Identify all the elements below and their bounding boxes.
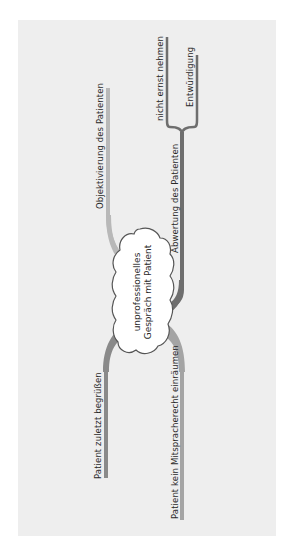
central-topic-text: unprofessionelles Gespräch mit Patient xyxy=(132,237,156,347)
branch-label-objektivierung: Objektivierung des Patienten xyxy=(95,83,105,209)
branch-nicht-ernst-line[interactable] xyxy=(167,37,182,134)
branch-label-abwertung: Abwertung des Patienten xyxy=(170,144,180,253)
branch-label-nicht-ernst-nehmen: nicht ernst nehmen xyxy=(155,36,165,121)
branch-label-entwuerdigung: Entwürdigung xyxy=(185,47,195,107)
central-topic-line2: Gespräch mit Patient xyxy=(143,237,154,347)
central-topic-line1: unprofessionelles xyxy=(132,237,143,347)
branch-label-mitsprache: Patient kein Mitspracherecht einräumen xyxy=(170,345,180,519)
branch-label-zuletzt: Patient zuletzt begrüßen xyxy=(93,372,103,479)
